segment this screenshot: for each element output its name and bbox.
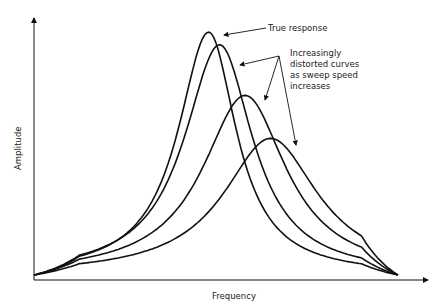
annotation-distorted-line-2: distorted curves [290,59,360,69]
x-axis-label: Frequency [212,291,256,301]
annotation-true-response: True response [267,23,327,33]
y-axis-label: Amplitude [13,126,23,170]
curve-distorted-curve-3 [34,138,398,275]
arrow-true-response [224,28,266,35]
annotation-distorted-line-3: as sweep speed [290,70,358,80]
arrow-distorted-2 [265,56,279,100]
annotation-distorted-line-1: Increasingly [290,48,341,58]
curve-distorted-curve-2 [34,95,398,275]
annotation-distorted-line-4: increases [290,81,331,91]
diagram: Amplitude Frequency True response Increa… [0,0,441,303]
arrow-distorted-1 [240,56,279,65]
